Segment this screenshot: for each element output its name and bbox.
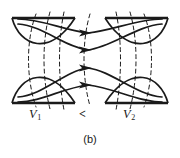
field-line-2 xyxy=(18,24,162,50)
electrodes-group xyxy=(12,18,168,103)
potential-relation-label: < xyxy=(79,108,86,120)
right-potential-subscript: 2 xyxy=(131,113,135,122)
left-potential-symbol: V xyxy=(29,107,37,121)
bottom-left-electrode-arc xyxy=(12,77,75,103)
right-potential-label: V2 xyxy=(123,108,135,121)
equipotential-line-6 xyxy=(130,12,136,109)
equipotential-line-4 xyxy=(84,14,90,106)
left-potential-label: V1 xyxy=(29,108,41,121)
field-lines-group xyxy=(18,19,162,102)
equipotential-lines-group xyxy=(29,12,152,110)
field-arrow-2 xyxy=(79,47,92,54)
field-arrow-3 xyxy=(79,65,92,72)
field-line-1 xyxy=(18,19,162,33)
left-potential-subscript: 1 xyxy=(37,113,41,122)
figure-caption: (b) xyxy=(0,134,180,145)
right-potential-symbol: V xyxy=(123,107,131,121)
figure-container: V1 < V2 (b) xyxy=(0,0,180,158)
bottom-right-electrode-arc xyxy=(105,77,168,103)
field-line-4 xyxy=(18,85,162,102)
equipotential-line-2 xyxy=(44,12,50,109)
field-line-3 xyxy=(18,68,162,97)
